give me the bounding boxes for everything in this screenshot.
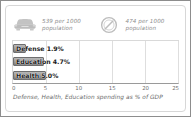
stat-phones-text: 474 per 1000 population xyxy=(126,18,165,31)
chart-bar-label: Health 5.0% xyxy=(16,72,58,79)
stats-row: 539 per 1000 population 474 per 1000 pop… xyxy=(10,9,181,40)
chart-bar-label: Defense 1.9% xyxy=(16,45,64,52)
x-axis-tick-label: 0 xyxy=(12,85,15,91)
chart-x-axis: 0510152025 xyxy=(12,84,179,94)
spending-bar-chart: Defense 1.9%Education 4.7%Health 5.0% xyxy=(12,40,179,84)
chart-bar-row: Education 4.7% xyxy=(13,56,178,67)
stat-phones-unit: population xyxy=(126,25,165,32)
stat-cars-value: 539 per 1000 xyxy=(42,18,81,24)
stat-phones: 474 per 1000 population xyxy=(96,14,180,36)
gridline xyxy=(178,41,179,83)
chart-bar-row: Defense 1.9% xyxy=(13,43,178,54)
telephone-dial-icon xyxy=(96,14,122,36)
x-axis-tick-label: 15 xyxy=(109,85,116,91)
x-axis-tick-label: 25 xyxy=(172,85,179,91)
widget-panel: 539 per 1000 population 474 per 1000 pop… xyxy=(5,5,186,112)
x-axis-tick-label: 10 xyxy=(75,85,82,91)
car-icon xyxy=(12,14,38,36)
stat-cars-text: 539 per 1000 population xyxy=(42,18,81,31)
chart-caption: Defense, Health, Education spending as %… xyxy=(13,94,178,100)
stat-phones-value: 474 per 1000 xyxy=(126,18,165,24)
chart-bar-row: Health 5.0% xyxy=(13,70,178,81)
x-axis-tick-label: 20 xyxy=(142,85,149,91)
chart-bars: Defense 1.9%Education 4.7%Health 5.0% xyxy=(13,41,178,83)
stat-cars: 539 per 1000 population xyxy=(12,14,96,36)
x-axis-tick-label: 5 xyxy=(44,85,47,91)
stat-cars-unit: population xyxy=(42,25,81,32)
country-stats-widget: 539 per 1000 population 474 per 1000 pop… xyxy=(0,0,191,117)
chart-bar-label: Education 4.7% xyxy=(16,58,70,65)
